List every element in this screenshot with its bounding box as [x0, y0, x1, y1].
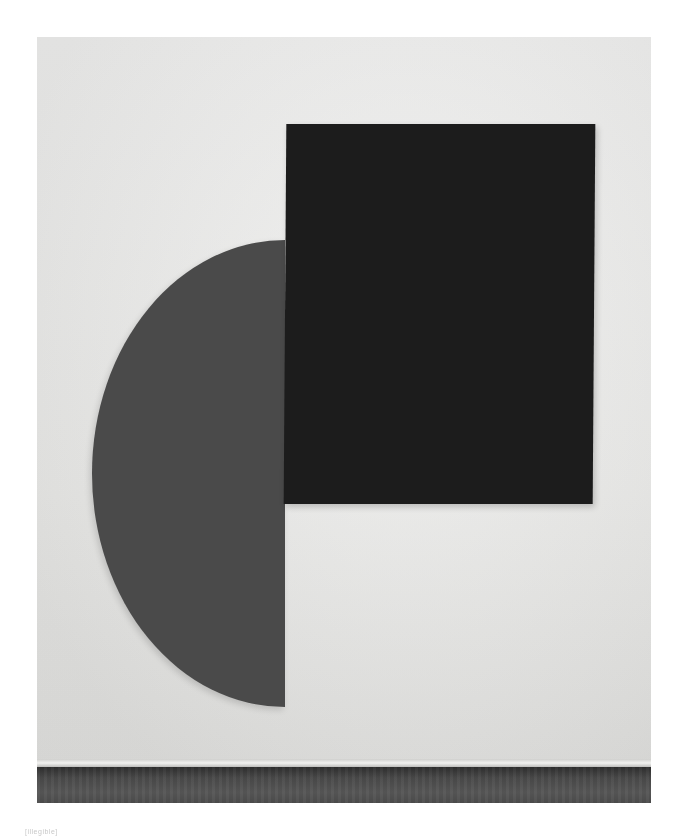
artwork-photograph [37, 37, 651, 803]
baseboard [37, 759, 651, 767]
black-rectangle-panel [284, 124, 596, 504]
photo-caption: [illegible] [25, 828, 58, 835]
wooden-floor [37, 767, 651, 803]
